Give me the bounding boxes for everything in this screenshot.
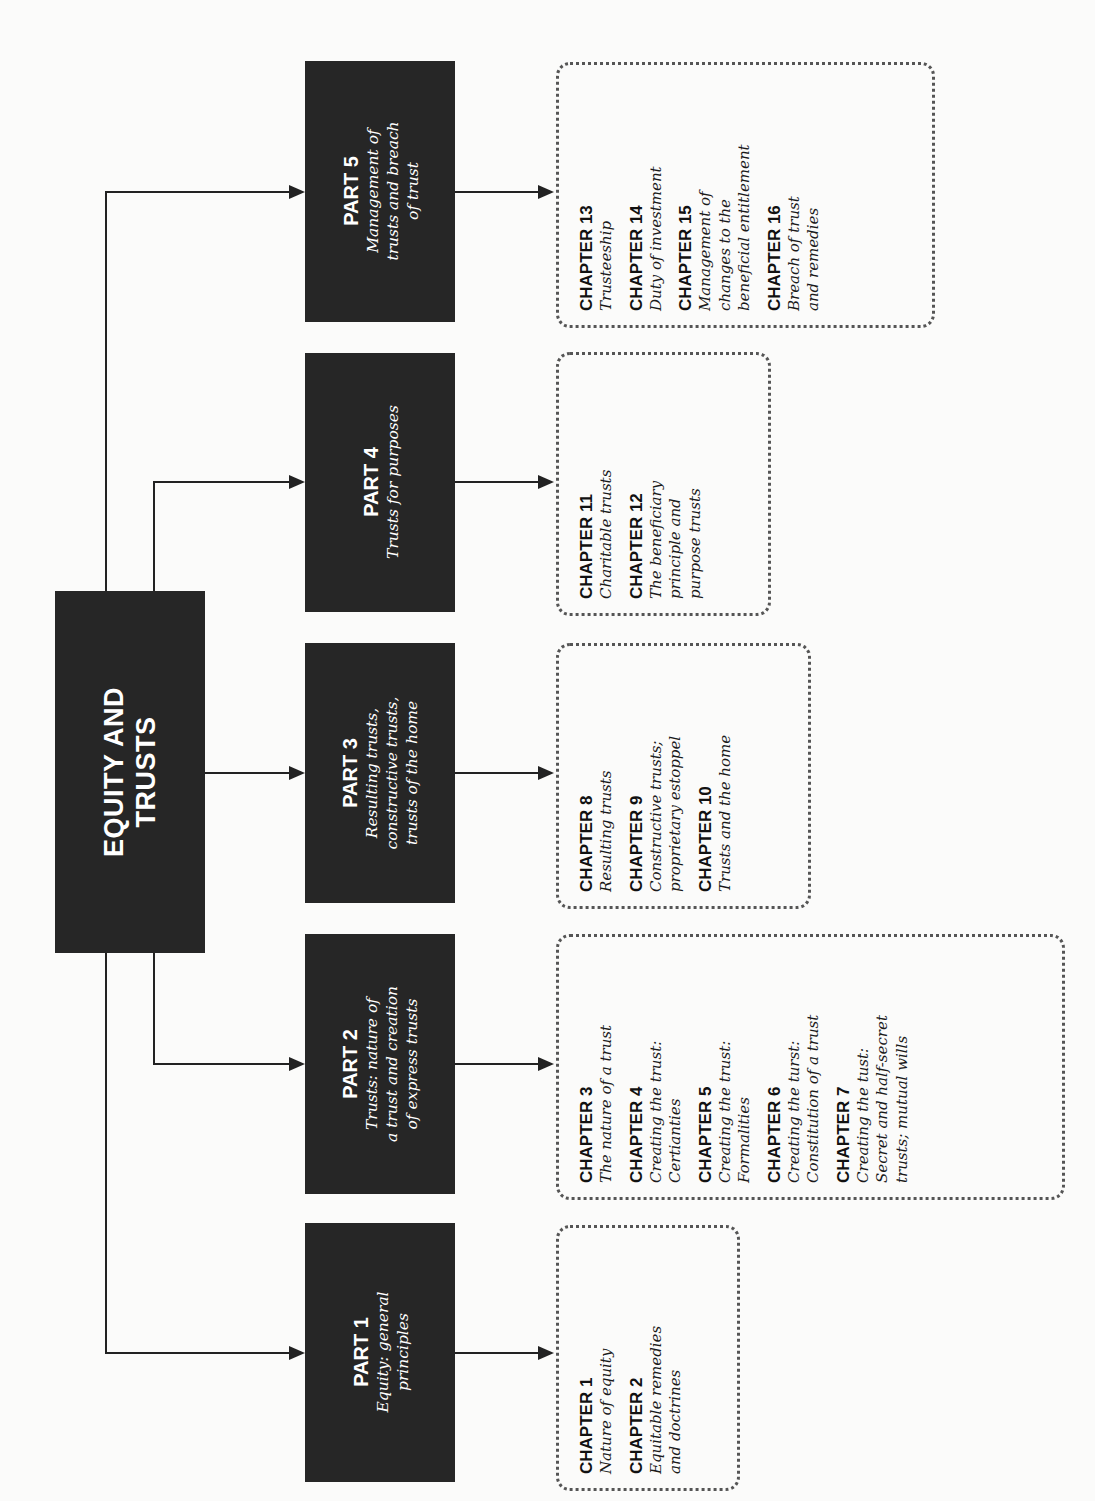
part-3-desc-line3: trusts of the home [402, 701, 422, 845]
connector-to-part-1 [105, 1352, 289, 1354]
arrow-to-part-1-icon [289, 1346, 305, 1360]
chapter-11: CHAPTER 11 Charitable trusts [577, 369, 617, 599]
chapters-part-1-box: CHAPTER 1 Nature of equity CHAPTER 2 Equ… [556, 1225, 740, 1491]
connector-trunk-inner-top [153, 482, 155, 591]
chapter-10-number: CHAPTER 10 [696, 660, 716, 892]
part-3-desc-line2: constructive trusts, [382, 697, 402, 850]
part-4-box: PART 4 Trusts for purposes [305, 353, 455, 612]
chapter-13: CHAPTER 13 Trusteeship [577, 79, 617, 311]
connector-part2-chapters [455, 1063, 540, 1065]
chapter-4: CHAPTER 4 Creating the trust: Certiantie… [627, 951, 686, 1183]
part-1-box: PART 1 Equity: general principles [305, 1223, 455, 1482]
chapter-4-title: Creating the trust: Certianties [647, 951, 686, 1183]
chapter-7-number: CHAPTER 7 [834, 951, 854, 1183]
chapter-10-title: Trusts and the home [716, 660, 736, 892]
chapters-part-4-box: CHAPTER 11 Charitable trusts CHAPTER 12 … [556, 352, 771, 616]
part-3-desc-line1: Resulting trusts, [362, 708, 382, 838]
chapter-11-title: Charitable trusts [597, 369, 617, 599]
chapters-part-3-box: CHAPTER 8 Resulting trusts CHAPTER 9 Con… [556, 643, 811, 909]
part-1-desc-line2: principles [393, 1313, 413, 1391]
connector-part1-chapters [455, 1352, 540, 1354]
part-5-box: PART 5 Management of trusts and breach o… [305, 61, 455, 322]
part-2-desc-line3: of express trusts [402, 999, 422, 1130]
chapter-13-title: Trusteeship [597, 79, 617, 311]
chapter-8-title: Resulting trusts [597, 660, 617, 892]
arrow-part1-chapters-icon [538, 1346, 554, 1360]
chapter-5-title: Creating the trust: Formalities [716, 951, 755, 1183]
connector-part5-chapters [455, 191, 540, 193]
chapter-2-title: Equitable remedies and doctrines [647, 1242, 686, 1474]
arrow-part4-chapters-icon [538, 475, 554, 489]
part-2-box: PART 2 Trusts: nature of a trust and cre… [305, 934, 455, 1194]
arrow-part3-chapters-icon [538, 766, 554, 780]
chapter-9-title: Constructive trusts; proprietary estoppe… [647, 660, 686, 892]
chapter-12-title: The beneficiary principle and purpose tr… [647, 369, 706, 599]
connector-part3-chapters [455, 772, 540, 774]
part-1-label: PART 1 [349, 1317, 373, 1387]
part-2-desc-line2: a trust and creation [382, 986, 402, 1142]
arrow-part2-chapters-icon [538, 1057, 554, 1071]
part-2-label: PART 2 [338, 1029, 362, 1099]
chapter-16-title: Breach of trust and remedies [785, 79, 824, 311]
chapter-7-title: Creating the tust: Secret and half-secre… [854, 951, 913, 1183]
part-5-desc-line2: trusts and breach [383, 121, 403, 260]
chapter-14-number: CHAPTER 14 [627, 79, 647, 311]
connector-trunk-outer-top [105, 192, 107, 591]
part-3-label: PART 3 [338, 738, 362, 808]
chapter-1-number: CHAPTER 1 [577, 1242, 597, 1474]
chapter-1: CHAPTER 1 Nature of equity [577, 1242, 617, 1474]
connector-part4-chapters [455, 481, 540, 483]
connector-trunk-outer-bottom [105, 953, 107, 1354]
chapter-14: CHAPTER 14 Duty of investment [627, 79, 667, 311]
arrow-to-part-5-icon [289, 185, 305, 199]
chapter-15-number: CHAPTER 15 [676, 79, 696, 311]
chapter-2: CHAPTER 2 Equitable remedies and doctrin… [627, 1242, 686, 1474]
root-title-line1: EQUITY AND [98, 687, 130, 857]
chapter-11-number: CHAPTER 11 [577, 369, 597, 599]
chapter-3: CHAPTER 3 The nature of a trust [577, 951, 617, 1183]
connector-to-part-2 [153, 1063, 289, 1065]
chapter-12: CHAPTER 12 The beneficiary principle and… [627, 369, 706, 599]
part-1-desc-line1: Equity: general [373, 1291, 393, 1412]
chapters-part-5-box: CHAPTER 13 Trusteeship CHAPTER 14 Duty o… [556, 62, 935, 328]
part-5-desc-line1: Management of [363, 129, 383, 253]
chapter-2-number: CHAPTER 2 [627, 1242, 647, 1474]
chapter-3-number: CHAPTER 3 [577, 951, 597, 1183]
chapter-4-number: CHAPTER 4 [627, 951, 647, 1183]
connector-to-part-3 [205, 772, 289, 774]
connector-trunk-inner-bottom [153, 953, 155, 1065]
arrow-to-part-2-icon [289, 1057, 305, 1071]
chapter-1-title: Nature of equity [597, 1242, 617, 1474]
chapter-5: CHAPTER 5 Creating the trust: Formalitie… [696, 951, 755, 1183]
chapter-10: CHAPTER 10 Trusts and the home [696, 660, 736, 892]
chapter-5-number: CHAPTER 5 [696, 951, 716, 1183]
chapter-6-title: Creating the turst: Constitution of a tr… [785, 951, 824, 1183]
part-5-label: PART 5 [339, 156, 363, 226]
part-3-box: PART 3 Resulting trusts, constructive tr… [305, 643, 455, 903]
chapters-part-2-box: CHAPTER 3 The nature of a trust CHAPTER … [556, 934, 1065, 1200]
chapter-13-number: CHAPTER 13 [577, 79, 597, 311]
chapter-3-title: The nature of a trust [597, 951, 617, 1183]
connector-to-part-4 [153, 481, 289, 483]
root-title-line2: TRUSTS [130, 717, 162, 828]
arrow-to-part-3-icon [289, 766, 305, 780]
chapter-9-number: CHAPTER 9 [627, 660, 647, 892]
chapter-7: CHAPTER 7 Creating the tust: Secret and … [834, 951, 913, 1183]
chapter-8-number: CHAPTER 8 [577, 660, 597, 892]
root-node-equity-and-trusts: EQUITY AND TRUSTS [55, 591, 205, 953]
chapter-6-number: CHAPTER 6 [765, 951, 785, 1183]
chapter-6: CHAPTER 6 Creating the turst: Constituti… [765, 951, 824, 1183]
chapter-12-number: CHAPTER 12 [627, 369, 647, 599]
connector-to-part-5 [105, 191, 289, 193]
part-4-desc-line1: Trusts for purposes [383, 405, 403, 559]
part-4-label: PART 4 [359, 447, 383, 517]
arrow-part5-chapters-icon [538, 185, 554, 199]
chapter-14-title: Duty of investment [647, 79, 667, 311]
arrow-to-part-4-icon [289, 475, 305, 489]
part-5-desc-line3: of trust [403, 162, 423, 220]
chapter-8: CHAPTER 8 Resulting trusts [577, 660, 617, 892]
chapter-9: CHAPTER 9 Constructive trusts; proprieta… [627, 660, 686, 892]
chapter-16: CHAPTER 16 Breach of trust and remedies [765, 79, 824, 311]
chapter-16-number: CHAPTER 16 [765, 79, 785, 311]
chapter-15: CHAPTER 15 Management of changes to the … [676, 79, 755, 311]
